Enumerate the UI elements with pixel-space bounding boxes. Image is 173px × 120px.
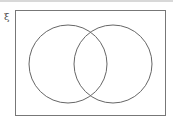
set-b-circle bbox=[74, 25, 152, 103]
universal-set-box bbox=[16, 11, 166, 116]
set-a-circle bbox=[29, 25, 107, 103]
venn-diagram: ξ bbox=[0, 0, 173, 120]
universal-set-symbol: ξ bbox=[4, 11, 10, 22]
